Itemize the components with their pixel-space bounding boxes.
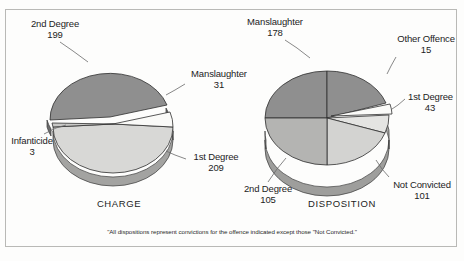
label-text: Not Convicted [393, 179, 451, 190]
leader-line-other-offence-disposition [387, 57, 396, 74]
label-other-offence-disposition: Other Offence 15 [389, 34, 463, 55]
label-not-convicted-disposition: Not Convicted 101 [385, 180, 459, 201]
label-manslaughter-charge: Manslaughter 31 [186, 69, 252, 90]
label-text: 2nd Degree [31, 18, 79, 29]
slice-2nd-degree-disposition [265, 118, 327, 165]
label-text: Infanticide [11, 135, 53, 146]
label-text: Manslaughter [247, 16, 303, 27]
label-text: 1st Degree [194, 151, 239, 162]
label-value: 101 [385, 191, 459, 202]
label-manslaughter-disposition: Manslaughter 178 [237, 17, 313, 38]
label-text: 2nd Degree [244, 183, 292, 194]
label-2nd-degree-charge: 2nd Degree 199 [14, 19, 96, 40]
caption-charge: CHARGE [83, 198, 155, 209]
footnote: "All dispositions represent convictions … [0, 228, 464, 235]
pie-chart-figure: 2nd Degree 199 Manslaughter 31 Infantici… [0, 0, 464, 261]
leader-line-1st-degree-disposition [392, 99, 405, 109]
label-value: 209 [187, 163, 245, 174]
slice-manslaughter-disposition [265, 71, 327, 118]
caption-disposition: DISPOSITION [297, 198, 387, 209]
slice-depth-2nd-degree-disposition [265, 131, 266, 149]
label-text: 1st Degree [408, 91, 453, 102]
leader-line-manslaughter-disposition [285, 40, 310, 58]
label-value: 105 [232, 195, 304, 206]
label-value: 178 [237, 28, 313, 39]
label-1st-degree-charge: 1st Degree 209 [187, 152, 245, 173]
label-value: 43 [408, 103, 452, 114]
label-value: 199 [14, 30, 96, 41]
label-1st-degree-disposition: 1st Degree 43 [408, 92, 452, 113]
label-infanticide-charge: Infanticide 3 [4, 136, 60, 157]
label-text: Manslaughter [191, 68, 247, 79]
label-2nd-degree-disposition: 2nd Degree 105 [232, 184, 304, 205]
label-text: Other Offence [397, 33, 455, 44]
label-value: 31 [186, 80, 252, 91]
label-value: 15 [389, 45, 463, 56]
label-value: 3 [4, 147, 60, 158]
